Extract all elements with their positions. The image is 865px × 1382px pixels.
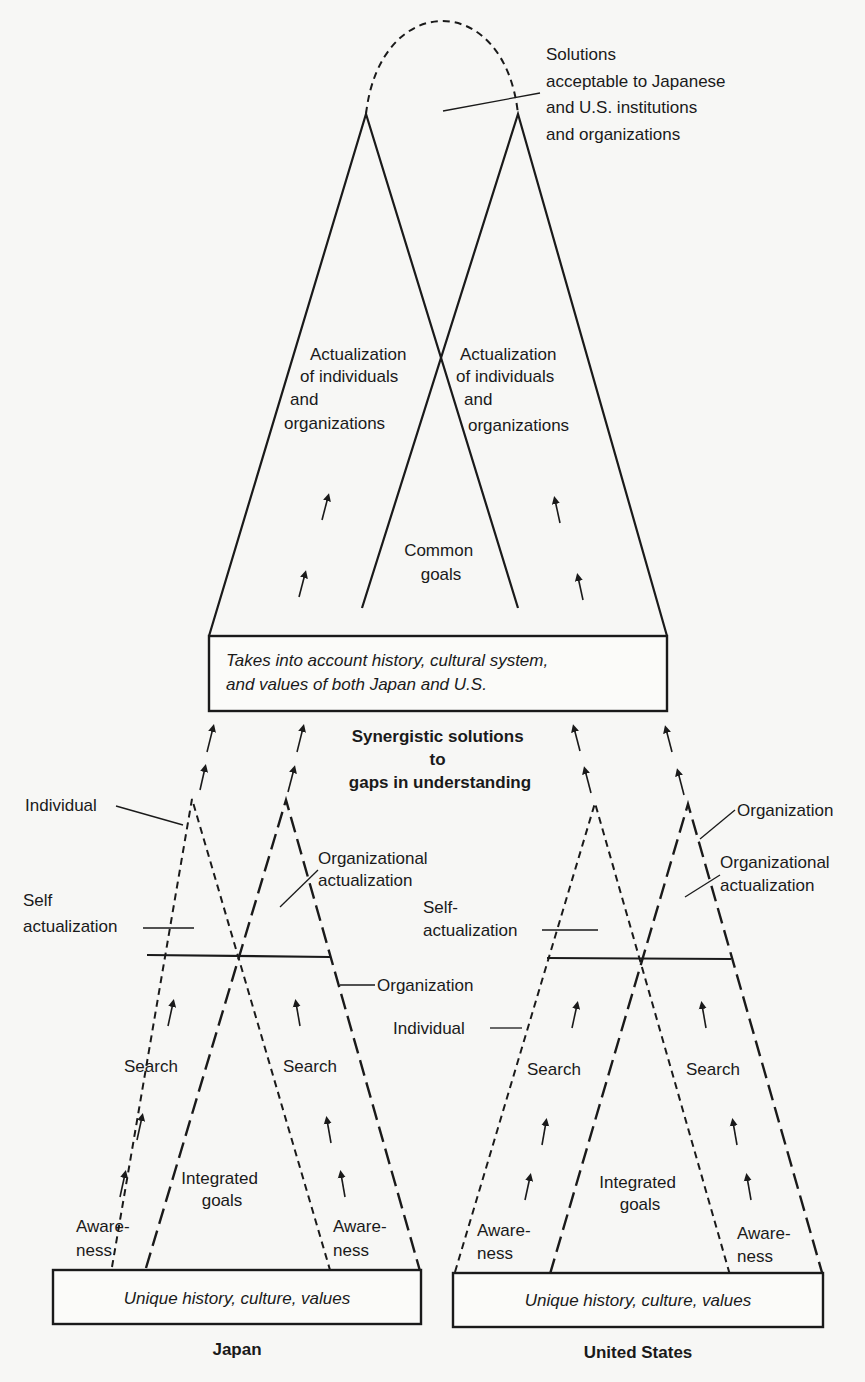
japan-org-actualization-label: Organizational actualization (318, 849, 432, 890)
up-arrow-icon (574, 728, 580, 751)
us-search-right: Search (686, 1060, 740, 1079)
common-goals-label: Common goals (404, 541, 478, 584)
us-awareness-left: Aware- ness (477, 1221, 535, 1263)
us-integrated-goals: Integrated goals (599, 1173, 680, 1214)
up-arrow-icon (733, 1122, 737, 1145)
us-org-actualization-label: Organizational actualization (720, 853, 834, 895)
japan-individual-label: Individual (25, 796, 97, 815)
us-search-left: Search (527, 1060, 581, 1079)
solutions-arch (366, 21, 518, 114)
up-arrow-icon (555, 500, 560, 523)
up-arrow-icon (666, 729, 672, 752)
up-arrow-icon (327, 1120, 331, 1143)
up-arrow-icon (578, 577, 583, 600)
japan-awareness-left: Aware- ness (76, 1217, 134, 1260)
up-arrow-icon (341, 1174, 345, 1197)
japan-search-left: Search (124, 1057, 178, 1076)
up-arrow-icon (702, 1005, 706, 1028)
us-self-actualization-label: Self- actualization (423, 898, 518, 940)
up-arrow-icon (322, 497, 328, 520)
up-arrow-icon (585, 770, 591, 793)
up-arrow-icon (678, 772, 684, 795)
japan-individual-leader (116, 806, 183, 825)
up-arrow-icon (297, 728, 303, 752)
combined-context-box (209, 636, 667, 711)
japan-awareness-right: Aware- ness (333, 1217, 391, 1260)
us-caption: United States (584, 1343, 693, 1362)
top-combined-diagram: Solutions acceptable to Japanese and U.S… (209, 21, 730, 711)
us-organization-label: Organization (737, 801, 833, 820)
us-individual-label: Individual (393, 1019, 465, 1038)
solutions-label: Solutions acceptable to Japanese and U.S… (546, 45, 730, 144)
japan-search-right: Search (283, 1057, 337, 1076)
up-arrow-icon (168, 1003, 173, 1026)
us-context-text: Unique history, culture, values (525, 1291, 752, 1310)
synergy-diagram: Solutions acceptable to Japanese and U.S… (0, 0, 865, 1382)
up-arrow-icon (525, 1177, 530, 1200)
japan-self-actualization-label: Self actualization (23, 891, 118, 936)
left-actualization-label: Actualization of individuals and organiz… (284, 345, 411, 433)
up-arrow-icon (296, 1003, 300, 1026)
solutions-leader-line (443, 93, 540, 111)
us-awareness-right: Aware- ness (737, 1224, 795, 1266)
us-individual-triangle (455, 803, 730, 1275)
up-arrow-icon (288, 769, 294, 792)
right-actualization-label: Actualization of individuals and organiz… (456, 345, 569, 435)
up-arrow-icon (299, 574, 305, 597)
japan-divider (147, 955, 330, 957)
us-organization-triangle (550, 804, 823, 1276)
up-arrow-icon (747, 1177, 751, 1200)
up-arrow-icon (200, 768, 205, 790)
us-diagram: Organization Organizational actualizatio… (393, 801, 834, 1362)
synergy-label: Synergistic solutions to gaps in underst… (349, 727, 531, 792)
up-arrow-icon (207, 728, 213, 752)
japan-integrated-goals: Integrated goals (181, 1169, 262, 1210)
up-arrow-icon (542, 1122, 546, 1145)
synergy-connector: Synergistic solutions to gaps in underst… (200, 727, 684, 795)
japan-diagram: Individual Self actualization Organizati… (23, 796, 473, 1359)
up-arrow-icon (572, 1005, 577, 1028)
us-organization-leader (700, 810, 735, 839)
us-divider (547, 958, 731, 959)
japan-organization-label: Organization (377, 976, 473, 995)
japan-context-text: Unique history, culture, values (124, 1289, 351, 1308)
japan-caption: Japan (212, 1340, 261, 1359)
